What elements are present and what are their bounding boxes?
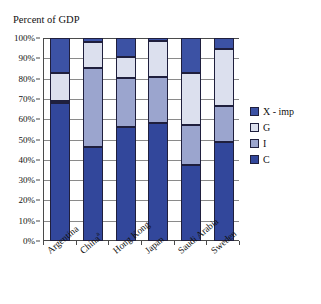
stacked-bar[interactable] bbox=[181, 38, 201, 240]
bar-group bbox=[181, 38, 201, 240]
x-tick-mark bbox=[43, 241, 44, 245]
bar-group bbox=[148, 38, 168, 240]
y-tick-mark bbox=[36, 78, 40, 79]
legend-swatch-icon bbox=[250, 139, 259, 148]
y-tick-label: 40% bbox=[19, 155, 36, 164]
bar-segment[interactable] bbox=[116, 127, 136, 241]
bar-segment[interactable] bbox=[116, 57, 136, 77]
x-tick-mark bbox=[108, 241, 109, 245]
stacked-bar[interactable] bbox=[148, 38, 168, 240]
bar-segment[interactable] bbox=[116, 78, 136, 128]
stacked-bar[interactable] bbox=[83, 38, 103, 240]
bar-group bbox=[83, 38, 103, 240]
bar-segment[interactable] bbox=[50, 103, 70, 241]
bar-segment[interactable] bbox=[148, 77, 168, 124]
stacked-bar[interactable] bbox=[214, 38, 234, 240]
y-tick-mark bbox=[36, 119, 40, 120]
y-tick-label: 10% bbox=[19, 216, 36, 225]
legend-label: C bbox=[263, 154, 270, 165]
y-tick-mark bbox=[36, 139, 40, 140]
y-tick-label: 70% bbox=[19, 94, 36, 103]
bar-segment[interactable] bbox=[181, 73, 201, 126]
bar-group bbox=[214, 38, 234, 240]
x-tick-mark bbox=[141, 241, 142, 245]
x-tick-mark bbox=[174, 241, 175, 245]
y-tick-mark bbox=[36, 241, 40, 242]
legend-label: I bbox=[263, 138, 266, 149]
bar-group bbox=[50, 38, 70, 240]
bar-segment[interactable] bbox=[214, 106, 234, 142]
x-tick-mark bbox=[76, 241, 77, 245]
stacked-bar-chart: Percent of GDP 100%90%80%70%60%50%40%30%… bbox=[0, 0, 321, 304]
bar-segment[interactable] bbox=[50, 101, 70, 103]
y-tick-label: 0% bbox=[23, 237, 35, 246]
stacked-bar[interactable] bbox=[50, 38, 70, 240]
bar-segment[interactable] bbox=[148, 123, 168, 241]
bar-segment[interactable] bbox=[116, 38, 136, 57]
y-tick-label: 80% bbox=[19, 74, 36, 83]
y-tick-label: 60% bbox=[19, 115, 36, 124]
y-tick-label: 30% bbox=[19, 176, 36, 185]
plot-area bbox=[43, 38, 239, 241]
legend-label: G bbox=[263, 122, 270, 133]
bar-segment[interactable] bbox=[181, 125, 201, 165]
bar-segment[interactable] bbox=[83, 68, 103, 146]
y-tick-mark bbox=[36, 98, 40, 99]
legend: X - impGIC bbox=[250, 103, 318, 167]
bar-segment[interactable] bbox=[50, 73, 70, 101]
x-tick-mark bbox=[239, 241, 240, 245]
y-tick-mark bbox=[36, 38, 40, 39]
bar-segment[interactable] bbox=[148, 41, 168, 77]
x-tick-mark bbox=[206, 241, 207, 245]
chart-title: Percent of GDP bbox=[13, 14, 80, 26]
bar-segment[interactable] bbox=[50, 38, 70, 73]
legend-swatch-icon bbox=[250, 107, 259, 116]
bar-group bbox=[116, 38, 136, 240]
bar-segment[interactable] bbox=[214, 49, 234, 106]
y-tick-label: 50% bbox=[19, 135, 36, 144]
bar-segment[interactable] bbox=[181, 165, 201, 241]
y-tick-label: 100% bbox=[14, 34, 35, 43]
y-tick-mark bbox=[36, 58, 40, 59]
bar-segment[interactable] bbox=[214, 142, 234, 241]
y-tick-mark bbox=[36, 220, 40, 221]
bar-segment[interactable] bbox=[181, 38, 201, 73]
legend-swatch-icon bbox=[250, 123, 259, 132]
legend-swatch-icon bbox=[250, 155, 259, 164]
y-tick-mark bbox=[36, 180, 40, 181]
legend-item[interactable]: G bbox=[250, 119, 318, 135]
y-tick-label: 20% bbox=[19, 196, 36, 205]
legend-item[interactable]: C bbox=[250, 151, 318, 167]
legend-label: X - imp bbox=[263, 106, 294, 117]
bar-segment[interactable] bbox=[83, 147, 103, 241]
legend-item[interactable]: X - imp bbox=[250, 103, 318, 119]
bars-layer bbox=[44, 38, 239, 240]
y-tick-mark bbox=[36, 200, 40, 201]
bar-segment[interactable] bbox=[214, 38, 234, 49]
y-tick-label: 90% bbox=[19, 54, 36, 63]
bar-segment[interactable] bbox=[83, 42, 103, 68]
y-tick-mark bbox=[36, 159, 40, 160]
bar-segment[interactable] bbox=[83, 38, 103, 42]
stacked-bar[interactable] bbox=[116, 38, 136, 240]
bar-segment[interactable] bbox=[148, 38, 168, 41]
y-axis: 100%90%80%70%60%50%40%30%20%10%0% bbox=[0, 38, 40, 241]
legend-item[interactable]: I bbox=[250, 135, 318, 151]
